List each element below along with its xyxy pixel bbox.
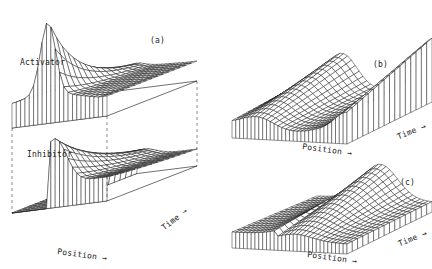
activator-label: Activator — [20, 58, 65, 67]
figure-canvas — [0, 0, 432, 269]
panel-label-c: (c) — [400, 178, 415, 187]
panel-label-b: (b) — [373, 60, 388, 69]
inhibitor-label: Inhibitor — [27, 150, 72, 159]
panel-label-a: (a) — [150, 36, 165, 45]
